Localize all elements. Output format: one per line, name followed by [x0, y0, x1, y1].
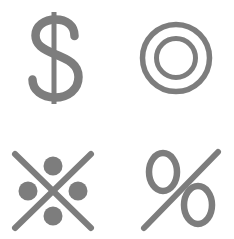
dot-right: [69, 182, 88, 201]
inner-circle: [157, 39, 196, 78]
cross-with-dots-icon: [0, 120, 117, 239]
icon-cell-concentric-circles[interactable]: Concentric Circles: [117, 0, 234, 120]
dot-left: [19, 182, 38, 201]
outer-circle: [143, 25, 210, 92]
percent-upper-ring: [149, 153, 177, 191]
icon-grid: Dollar Sign Concentric Circles Cross Wit…: [0, 0, 234, 239]
dollar-sign-icon: [0, 0, 117, 120]
icon-cell-cross-dots[interactable]: Cross With Four Dots: [0, 120, 117, 239]
concentric-circles-icon: [117, 0, 234, 120]
dot-bottom: [44, 207, 63, 226]
icon-cell-percent-sign[interactable]: Percent Sign: [117, 120, 234, 239]
icon-cell-dollar-sign[interactable]: Dollar Sign: [0, 0, 117, 120]
percent-lower-ring: [184, 186, 212, 224]
percent-sign-icon: [117, 120, 234, 239]
dot-top: [44, 157, 63, 176]
